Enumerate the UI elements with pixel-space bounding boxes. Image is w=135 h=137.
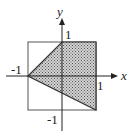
x-axis-label: x [120,68,127,83]
x-axis-arrow-icon [111,73,118,79]
tick-label-x-neg: -1 [11,62,22,77]
tick-label-y-neg: -1 [47,112,58,127]
tick-label-y-pos: 1 [65,27,72,42]
y-axis-arrow-icon [59,18,65,25]
y-axis-label: y [55,4,63,19]
region-diagram: x y 1 1 -1 -1 [0,0,135,137]
tick-label-x-pos: 1 [97,78,104,93]
